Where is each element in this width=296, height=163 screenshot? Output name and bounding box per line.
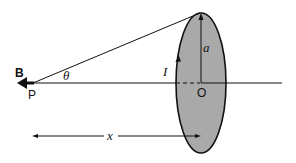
radius-label: a [203,40,210,55]
angle-label: θ [63,68,70,83]
current-loop-diagram: B P θ I a O x [0,0,296,163]
center-label: O [197,86,206,100]
current-label: I [162,64,168,79]
distance-label: x [106,128,113,143]
distance-arrow-left-icon [32,134,38,138]
slant-line [33,13,200,83]
point-label: P [28,88,36,102]
field-label: B [15,66,24,80]
